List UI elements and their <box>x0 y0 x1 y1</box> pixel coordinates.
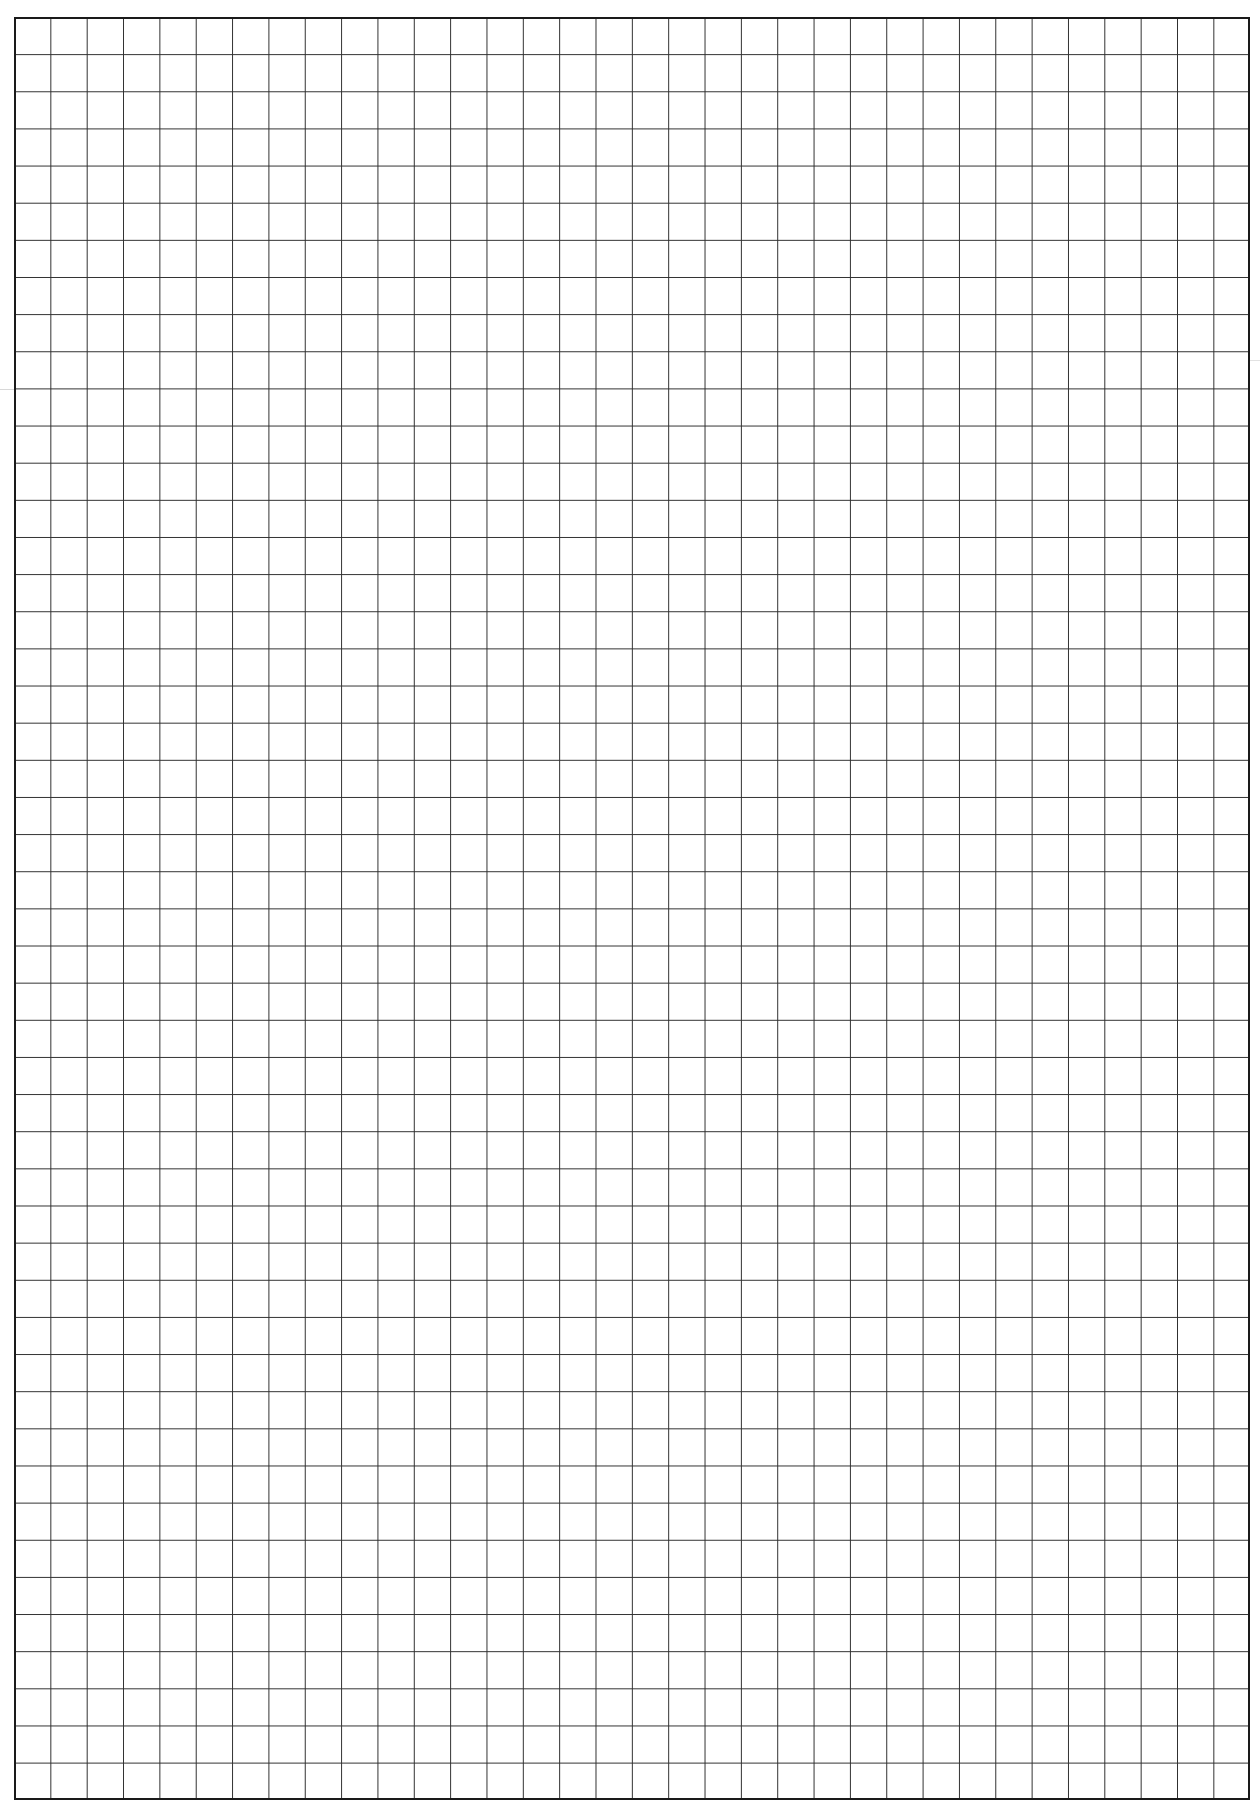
sheet-text <box>16 19 17 20</box>
scan-artifact-line <box>1250 360 1260 361</box>
graph-paper-grid <box>14 17 1250 1800</box>
scan-artifact-line <box>0 389 14 390</box>
page <box>0 0 1260 1807</box>
